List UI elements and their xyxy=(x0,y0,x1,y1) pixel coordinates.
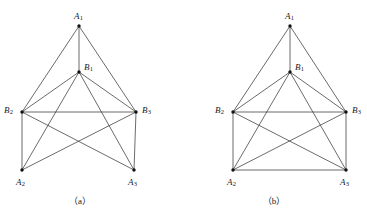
vertex-label-B1: B1 xyxy=(84,63,93,73)
graph-vertex-A2 xyxy=(20,168,23,171)
vertex-label-base: A xyxy=(128,177,134,187)
graph-vertex-A1 xyxy=(288,24,291,27)
panel-vertices-panel-b xyxy=(231,24,347,171)
graph-edge-B1-B3 xyxy=(79,72,136,112)
graph-edge-A1-B2 xyxy=(22,26,79,112)
vertex-label-subscript: 3 xyxy=(148,108,152,115)
graph-vertex-A2 xyxy=(231,168,234,171)
graph-edge-A1-B2 xyxy=(233,26,290,112)
vertex-label-base: A xyxy=(74,11,80,21)
vertex-label-base: B xyxy=(215,105,221,115)
vertex-label-base: A xyxy=(285,11,291,21)
vertex-label-A2: A2 xyxy=(227,178,236,188)
graph-vertex-B1 xyxy=(77,70,80,73)
graph-edge-B3-A3 xyxy=(134,112,136,170)
vertex-label-subscript: 3 xyxy=(358,108,362,115)
panel-edges-panel-b xyxy=(233,26,346,170)
graph-edge-B1-B2 xyxy=(22,72,79,112)
vertex-label-base: B xyxy=(4,105,10,115)
graph-vertex-A3 xyxy=(132,168,135,171)
vertex-label-A3: A3 xyxy=(340,178,349,188)
graph-vertex-B2 xyxy=(20,110,23,113)
vertex-label-subscript: 3 xyxy=(346,180,350,187)
vertex-label-A3: A3 xyxy=(128,178,137,188)
graph-edge-B1-A3 xyxy=(79,72,134,170)
graph-vertex-A3 xyxy=(344,168,347,171)
vertex-label-subscript: 1 xyxy=(291,14,295,21)
vertex-label-base: A xyxy=(16,177,22,187)
vertex-label-subscript: 1 xyxy=(90,65,94,72)
vertex-label-B2: B2 xyxy=(215,106,224,116)
vertex-label-B3: B3 xyxy=(142,106,151,116)
caption-panel-b: （b） xyxy=(254,197,294,206)
caption-panel-a: （a） xyxy=(60,197,100,206)
vertex-label-base: A xyxy=(340,177,346,187)
vertex-label-subscript: 2 xyxy=(233,180,237,187)
vertex-label-base: B xyxy=(84,62,90,72)
vertex-label-B3: B3 xyxy=(352,106,361,116)
graph-edge-B1-B2 xyxy=(233,72,290,112)
graph-vertex-B2 xyxy=(231,110,234,113)
graph-canvas xyxy=(0,0,367,213)
vertex-label-base: B xyxy=(295,62,301,72)
graph-vertex-A1 xyxy=(77,24,80,27)
edges-layer xyxy=(22,26,346,170)
vertex-label-subscript: 3 xyxy=(134,180,138,187)
vertex-label-subscript: 1 xyxy=(80,14,84,21)
panel-edges-panel-a xyxy=(22,26,136,170)
vertex-label-B1: B1 xyxy=(295,63,304,73)
graph-vertex-B3 xyxy=(134,110,137,113)
graph-edge-B1-B3 xyxy=(290,72,346,112)
vertex-label-A1: A1 xyxy=(285,12,294,22)
graph-vertex-B3 xyxy=(344,110,347,113)
graph-vertex-B1 xyxy=(288,70,291,73)
vertex-label-base: A xyxy=(227,177,233,187)
vertices-layer xyxy=(20,24,347,171)
vertex-label-subscript: 1 xyxy=(301,65,305,72)
vertex-label-subscript: 2 xyxy=(22,180,26,187)
vertex-label-A2: A2 xyxy=(16,178,25,188)
figure-root: A1B1B2B3A2A3（a）A1B1B2B3A2A3（b） xyxy=(0,0,367,213)
vertex-label-subscript: 2 xyxy=(10,108,14,115)
vertex-label-B2: B2 xyxy=(4,106,13,116)
vertex-label-subscript: 2 xyxy=(221,108,225,115)
vertex-label-A1: A1 xyxy=(74,12,83,22)
vertex-label-base: B xyxy=(142,105,148,115)
vertex-label-base: B xyxy=(352,105,358,115)
